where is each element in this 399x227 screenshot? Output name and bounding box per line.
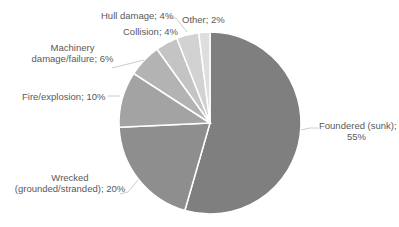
label-machinery-line2: damage/failure; 6% (30, 53, 115, 64)
label-wrecked-line1: Wrecked (14, 172, 126, 183)
label-foundered-line2: 55% (319, 131, 394, 142)
label-wrecked: Wrecked (grounded/stranded); 20% (14, 172, 126, 194)
label-foundered-line1: Foundered (sunk); (319, 120, 394, 131)
leader-foundered (301, 128, 318, 130)
label-hull: Hull damage; 4% (101, 10, 173, 21)
pie-slices (119, 32, 301, 214)
label-wrecked-line2: (grounded/stranded); 20% (14, 183, 126, 194)
label-machinery-line1: Machinery (30, 42, 115, 53)
label-fire: Fire/explosion; 10% (22, 91, 105, 102)
label-machinery: Machinery damage/failure; 6% (30, 42, 115, 64)
label-foundered: Foundered (sunk); 55% (319, 120, 394, 142)
label-collision: Collision; 4% (123, 26, 178, 37)
label-other: Other; 2% (182, 14, 225, 25)
